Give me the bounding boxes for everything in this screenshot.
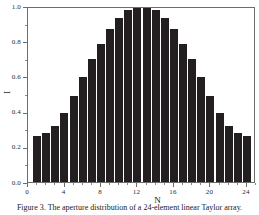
bar (152, 10, 160, 182)
x-minor-tick-mark (73, 183, 74, 185)
x-minor-tick-mark (118, 183, 119, 185)
x-minor-tick-mark (237, 183, 238, 185)
x-minor-tick-mark (255, 183, 256, 185)
bar (133, 7, 141, 182)
x-minor-tick-mark (91, 183, 92, 185)
bar (225, 126, 233, 183)
x-tick-mark (64, 183, 65, 187)
bar (88, 59, 96, 182)
bar (115, 18, 123, 182)
y-axis-title: I (3, 87, 12, 99)
bar (106, 29, 114, 182)
x-tick-mark (209, 183, 210, 187)
bar (60, 113, 68, 182)
x-minor-tick-mark (155, 183, 156, 185)
x-minor-tick-mark (82, 183, 83, 185)
x-tick-mark (173, 183, 174, 187)
x-minor-tick-mark (191, 183, 192, 185)
y-tick-mark (23, 7, 27, 8)
y-minor-tick-mark (25, 165, 27, 166)
bar (243, 136, 251, 182)
bar (51, 126, 59, 183)
y-tick-mark (23, 77, 27, 78)
x-minor-tick-mark (109, 183, 110, 185)
x-minor-tick-mark (219, 183, 220, 185)
x-tick-mark (100, 183, 101, 187)
y-minor-tick-mark (25, 60, 27, 61)
bars-layer (28, 8, 254, 182)
bar (170, 29, 178, 182)
bar (42, 133, 50, 182)
y-tick-label: 0.2 (12, 144, 21, 151)
x-minor-tick-mark (164, 183, 165, 185)
bar (70, 96, 78, 182)
bar (143, 7, 151, 182)
x-minor-tick-mark (45, 183, 46, 185)
bar (179, 44, 187, 183)
bar (216, 113, 224, 182)
figure-container: 0.00.20.40.60.81.0 04812162024 I N Figur… (0, 0, 259, 215)
x-tick-mark (136, 183, 137, 187)
x-minor-tick-mark (36, 183, 37, 185)
x-minor-tick-mark (228, 183, 229, 185)
bar (188, 59, 196, 182)
y-tick-label: 0.8 (12, 39, 21, 46)
y-minor-tick-mark (25, 130, 27, 131)
x-minor-tick-mark (127, 183, 128, 185)
y-tick-label: 0.6 (12, 74, 21, 81)
y-tick-mark (23, 148, 27, 149)
y-tick-label: 0.4 (12, 109, 21, 116)
bar (234, 133, 242, 182)
x-minor-tick-mark (146, 183, 147, 185)
bar (161, 18, 169, 182)
y-minor-tick-mark (25, 25, 27, 26)
plot-area (27, 7, 255, 183)
bar (206, 96, 214, 182)
figure-caption: Figure 3. The aperture distribution of a… (0, 203, 259, 213)
x-tick-mark (246, 183, 247, 187)
y-minor-tick-mark (25, 95, 27, 96)
bar (97, 44, 105, 183)
y-tick-mark (23, 42, 27, 43)
x-minor-tick-mark (182, 183, 183, 185)
x-tick-mark (27, 183, 28, 187)
y-tick-label: 1.0 (12, 4, 21, 11)
y-tick-mark (23, 113, 27, 114)
x-minor-tick-mark (200, 183, 201, 185)
x-minor-tick-mark (54, 183, 55, 185)
bar (33, 136, 41, 182)
bar (197, 77, 205, 182)
bar (79, 77, 87, 182)
bar (124, 10, 132, 182)
